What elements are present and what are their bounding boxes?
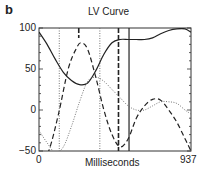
series-dotted-line <box>39 77 191 153</box>
series-solid-line <box>39 29 191 85</box>
plot-area <box>0 0 204 179</box>
plot-frame <box>39 28 191 151</box>
